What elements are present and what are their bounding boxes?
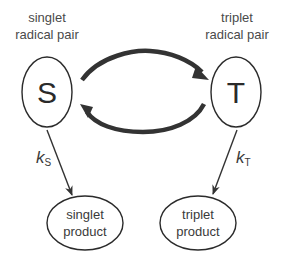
singlet-state-symbol: S [37,76,57,109]
singlet-state-node: S [22,57,72,127]
singlet-rate-label: kS [36,148,52,168]
triplet-label-line1: triplet [221,10,253,25]
triplet-label-line2: radical pair [205,27,269,42]
radical-pair-diagram: singlet radical pair triplet radical pai… [0,0,282,264]
triplet-state-symbol: T [227,76,245,109]
singlet-label-line2: radical pair [15,27,79,42]
bottom-arc [87,104,204,132]
triplet-state-node: T [211,57,261,127]
interconversion-arrow-s-to-t [82,51,209,80]
singlet-product-line2: product [63,224,107,239]
triplet-rate-label: kT [236,148,251,168]
singlet-decay-arrow: kS [36,130,72,195]
singlet-radical-pair-label: singlet radical pair [15,10,79,42]
triplet-product-ellipse [160,196,236,250]
triplet-decay-line [213,130,237,194]
singlet-product-ellipse [47,196,123,250]
triplet-product-line2: product [176,224,220,239]
interconversion-arrow-t-to-s [80,104,204,132]
singlet-product-line1: singlet [66,207,104,222]
top-arc [82,51,202,80]
singlet-product-node: singlet product [47,196,123,250]
triplet-decay-arrow: kT [213,130,251,194]
triplet-product-line1: triplet [182,207,214,222]
triplet-product-node: triplet product [160,196,236,250]
triplet-radical-pair-label: triplet radical pair [205,10,269,42]
singlet-label-line1: singlet [28,10,66,25]
